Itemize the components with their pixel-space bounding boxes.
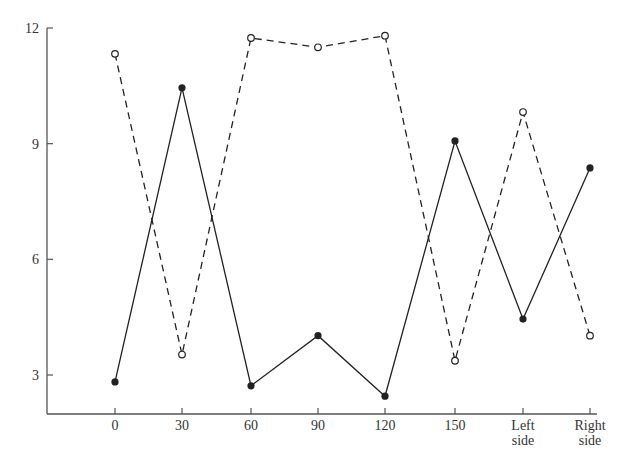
x-tick-label: 150	[445, 418, 466, 433]
y-tick-label: 12	[25, 21, 39, 36]
filled-circle-marker	[111, 378, 118, 385]
filled-circle-marker	[314, 332, 321, 339]
open-circle-marker	[179, 351, 186, 358]
open-circle-marker	[315, 44, 322, 51]
y-tick-label: 9	[32, 137, 39, 152]
y-axis-ticks: 12963	[25, 21, 53, 383]
y-tick-label: 3	[32, 368, 39, 383]
open-circle-marker	[382, 32, 389, 39]
x-tick-label: 60	[244, 418, 258, 433]
open-circle-marker	[452, 357, 459, 364]
open-circle-marker	[112, 51, 119, 58]
line-chart: 12963 0306090120150LeftsideRightside	[0, 0, 630, 467]
x-tick-label-line2: side	[579, 433, 602, 448]
filled-circle-marker	[178, 84, 185, 91]
open-circle-marker	[520, 109, 527, 116]
x-tick-label: 120	[375, 418, 396, 433]
open-circle-marker	[587, 332, 594, 339]
filled-circle-marker	[586, 164, 593, 171]
filled-circle-marker	[381, 393, 388, 400]
axes	[47, 28, 597, 414]
x-tick-label: 30	[175, 418, 189, 433]
x-tick-label-line2: side	[512, 433, 535, 448]
x-tick-label: 90	[311, 418, 325, 433]
x-tick-label: Right	[574, 418, 605, 433]
x-tick-label: Left	[511, 418, 534, 433]
filled-circle-marker	[451, 137, 458, 144]
filled-circle-marker	[519, 315, 526, 322]
open-circle-marker	[248, 35, 255, 42]
data-series	[111, 32, 593, 399]
y-tick-label: 6	[32, 252, 39, 267]
x-tick-label: 0	[112, 418, 119, 433]
filled-circle-marker	[247, 382, 254, 389]
